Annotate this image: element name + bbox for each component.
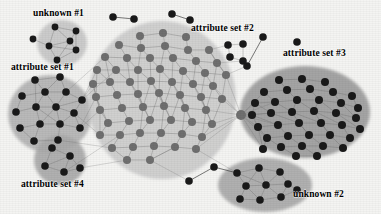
graph-node[interactable] <box>213 59 221 67</box>
graph-node[interactable] <box>226 53 234 61</box>
graph-node[interactable] <box>113 91 121 99</box>
graph-node[interactable] <box>146 54 154 62</box>
graph-node[interactable] <box>48 144 56 152</box>
graph-node[interactable] <box>93 66 101 74</box>
graph-node[interactable] <box>115 41 123 49</box>
graph-node[interactable] <box>178 130 186 138</box>
graph-node[interactable] <box>160 102 168 110</box>
graph-node[interactable] <box>176 91 184 99</box>
graph-node[interactable] <box>16 124 24 132</box>
graph-node[interactable] <box>248 111 256 119</box>
graph-node[interactable] <box>179 67 187 75</box>
graph-node[interactable] <box>67 38 74 45</box>
graph-node[interactable] <box>109 13 117 21</box>
graph-node[interactable] <box>295 119 303 127</box>
graph-node[interactable] <box>275 76 283 84</box>
graph-node[interactable] <box>277 143 285 151</box>
graph-node[interactable] <box>161 42 169 50</box>
graph-node[interactable] <box>96 106 104 114</box>
graph-node[interactable] <box>306 85 314 93</box>
graph-node[interactable] <box>288 108 296 116</box>
graph-node[interactable] <box>256 196 264 204</box>
graph-node[interactable] <box>276 168 284 176</box>
graph-node[interactable] <box>298 142 306 150</box>
graph-node[interactable] <box>255 164 263 172</box>
graph-node[interactable] <box>356 125 364 133</box>
graph-node[interactable] <box>186 16 194 24</box>
graph-node[interactable] <box>319 142 327 150</box>
graph-node[interactable] <box>76 124 84 132</box>
graph-node[interactable] <box>78 96 86 104</box>
graph-node[interactable] <box>242 182 250 190</box>
graph-node[interactable] <box>260 88 268 96</box>
graph-node[interactable] <box>218 95 226 103</box>
graph-node[interactable] <box>41 162 49 170</box>
graph-node[interactable] <box>18 92 26 100</box>
graph-node[interactable] <box>188 118 196 126</box>
graph-node[interactable] <box>101 53 109 61</box>
graph-node[interactable] <box>52 103 60 111</box>
graph-node[interactable] <box>12 108 20 116</box>
graph-node[interactable] <box>329 88 337 96</box>
graph-node[interactable] <box>254 123 262 131</box>
graph-node[interactable] <box>54 136 62 144</box>
graph-node[interactable] <box>271 98 279 106</box>
graph-node[interactable] <box>182 33 190 41</box>
graph-node[interactable] <box>277 193 285 201</box>
graph-node[interactable] <box>224 41 232 49</box>
graph-node[interactable] <box>134 90 142 98</box>
graph-node[interactable] <box>104 119 112 127</box>
graph-node[interactable] <box>62 88 70 96</box>
graph-node[interactable] <box>233 169 241 177</box>
graph-node[interactable] <box>315 96 323 104</box>
graph-node[interactable] <box>136 32 144 40</box>
graph-node[interactable] <box>338 121 346 129</box>
graph-node[interactable] <box>259 33 267 41</box>
graph-node[interactable] <box>125 117 133 125</box>
graph-node[interactable] <box>305 131 313 139</box>
graph-node[interactable] <box>284 180 292 188</box>
graph-node[interactable] <box>30 36 37 43</box>
graph-node[interactable] <box>348 92 356 100</box>
graph-node[interactable] <box>184 46 192 54</box>
graph-node[interactable] <box>198 133 206 141</box>
graph-node[interactable] <box>155 89 163 97</box>
graph-node[interactable] <box>262 181 270 189</box>
graph-node[interactable] <box>108 144 116 152</box>
graph-node[interactable] <box>189 80 197 88</box>
graph-node[interactable] <box>139 103 147 111</box>
graph-node[interactable] <box>54 57 61 64</box>
graph-node[interactable] <box>208 120 216 128</box>
graph-node[interactable] <box>236 195 244 203</box>
graph-node[interactable] <box>52 24 59 31</box>
graph-node[interactable] <box>332 109 340 117</box>
graph-node[interactable] <box>169 54 177 62</box>
graph-node[interactable] <box>210 163 218 171</box>
graph-node[interactable] <box>310 107 318 115</box>
graph-node[interactable] <box>337 99 345 107</box>
graph-node[interactable] <box>192 57 200 65</box>
graph-node[interactable] <box>346 134 354 142</box>
graph-node[interactable] <box>197 93 205 101</box>
graph-node[interactable] <box>168 78 176 86</box>
graph-node[interactable] <box>136 129 144 137</box>
graph-node[interactable] <box>292 152 300 160</box>
graph-node[interactable] <box>56 120 64 128</box>
graph-node[interactable] <box>60 168 68 176</box>
graph-node[interactable] <box>96 131 104 139</box>
graph-node[interactable] <box>317 119 325 127</box>
graph-node[interactable] <box>146 116 154 124</box>
graph-node[interactable] <box>167 116 175 124</box>
graph-node[interactable] <box>326 131 334 139</box>
graph-node[interactable] <box>293 38 301 46</box>
graph-node[interactable] <box>92 93 100 101</box>
graph-node[interactable] <box>251 99 259 107</box>
graph-node[interactable] <box>321 78 329 86</box>
graph-node[interactable] <box>157 129 165 137</box>
graph-node[interactable] <box>201 69 209 77</box>
graph-node[interactable] <box>284 132 292 140</box>
graph-node[interactable] <box>32 103 40 111</box>
graph-node[interactable] <box>339 144 347 152</box>
graph-node[interactable] <box>159 29 167 37</box>
graph-node[interactable] <box>205 46 213 54</box>
